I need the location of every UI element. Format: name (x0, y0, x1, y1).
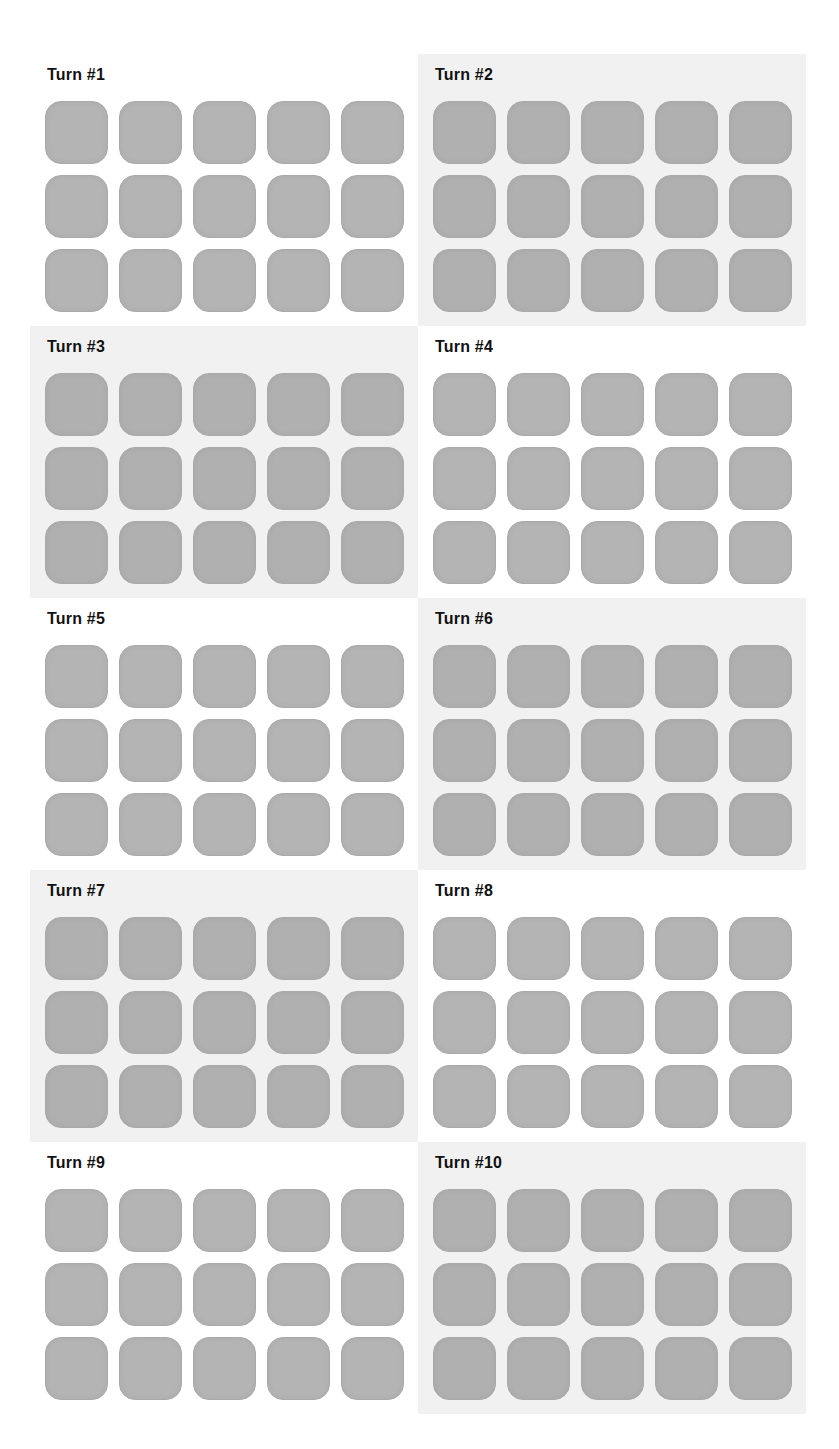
tile-r1-c3[interactable] (581, 101, 644, 164)
tile-r3-c5[interactable] (729, 793, 792, 856)
tile-r1-c4[interactable] (267, 101, 330, 164)
tile-r1-c3[interactable] (581, 373, 644, 436)
tile-r2-c4[interactable] (267, 447, 330, 510)
tile-r2-c3[interactable] (193, 175, 256, 238)
tile-r3-c2[interactable] (119, 249, 182, 312)
tile-r3-c2[interactable] (507, 793, 570, 856)
tile-r3-c2[interactable] (119, 521, 182, 584)
tile-r3-c1[interactable] (45, 1337, 108, 1400)
tile-r1-c1[interactable] (45, 101, 108, 164)
tile-r3-c5[interactable] (729, 1337, 792, 1400)
tile-r3-c5[interactable] (729, 1065, 792, 1128)
tile-r2-c5[interactable] (341, 719, 404, 782)
tile-r1-c2[interactable] (507, 101, 570, 164)
tile-r3-c3[interactable] (581, 1065, 644, 1128)
tile-r3-c1[interactable] (45, 1065, 108, 1128)
tile-r2-c5[interactable] (341, 175, 404, 238)
tile-r2-c3[interactable] (193, 991, 256, 1054)
tile-r2-c4[interactable] (267, 719, 330, 782)
tile-r3-c2[interactable] (507, 521, 570, 584)
tile-r3-c4[interactable] (655, 521, 718, 584)
tile-r1-c1[interactable] (45, 373, 108, 436)
tile-r1-c2[interactable] (507, 645, 570, 708)
tile-r2-c5[interactable] (729, 719, 792, 782)
tile-r3-c3[interactable] (581, 521, 644, 584)
tile-r2-c4[interactable] (655, 1263, 718, 1326)
tile-r3-c5[interactable] (341, 521, 404, 584)
tile-r3-c4[interactable] (655, 1337, 718, 1400)
tile-r3-c3[interactable] (581, 1337, 644, 1400)
tile-r1-c2[interactable] (119, 373, 182, 436)
tile-r1-c3[interactable] (193, 645, 256, 708)
tile-r1-c5[interactable] (729, 101, 792, 164)
tile-r3-c4[interactable] (267, 249, 330, 312)
tile-r2-c2[interactable] (507, 447, 570, 510)
tile-r1-c1[interactable] (433, 645, 496, 708)
tile-r3-c4[interactable] (267, 521, 330, 584)
tile-r3-c3[interactable] (193, 249, 256, 312)
tile-r1-c3[interactable] (193, 1189, 256, 1252)
tile-r1-c2[interactable] (119, 645, 182, 708)
tile-r2-c1[interactable] (433, 991, 496, 1054)
tile-r3-c3[interactable] (193, 793, 256, 856)
tile-r3-c2[interactable] (119, 793, 182, 856)
tile-r2-c2[interactable] (507, 1263, 570, 1326)
tile-r3-c1[interactable] (45, 793, 108, 856)
tile-r1-c5[interactable] (729, 1189, 792, 1252)
tile-r2-c1[interactable] (45, 719, 108, 782)
tile-r2-c4[interactable] (655, 991, 718, 1054)
tile-r2-c2[interactable] (507, 991, 570, 1054)
tile-r1-c4[interactable] (267, 1189, 330, 1252)
tile-r1-c4[interactable] (655, 645, 718, 708)
tile-r1-c4[interactable] (655, 373, 718, 436)
tile-r3-c2[interactable] (507, 249, 570, 312)
tile-r3-c5[interactable] (341, 1337, 404, 1400)
tile-r2-c5[interactable] (729, 991, 792, 1054)
tile-r3-c1[interactable] (433, 521, 496, 584)
tile-r2-c5[interactable] (729, 1263, 792, 1326)
tile-r1-c2[interactable] (119, 1189, 182, 1252)
tile-r2-c1[interactable] (45, 447, 108, 510)
tile-r2-c4[interactable] (267, 991, 330, 1054)
tile-r1-c1[interactable] (45, 1189, 108, 1252)
tile-r3-c1[interactable] (433, 793, 496, 856)
tile-r2-c4[interactable] (655, 719, 718, 782)
tile-r3-c4[interactable] (655, 1065, 718, 1128)
tile-r1-c3[interactable] (581, 917, 644, 980)
tile-r2-c5[interactable] (729, 175, 792, 238)
tile-r2-c1[interactable] (433, 719, 496, 782)
tile-r2-c2[interactable] (507, 175, 570, 238)
tile-r1-c1[interactable] (433, 373, 496, 436)
tile-r2-c1[interactable] (45, 175, 108, 238)
tile-r2-c2[interactable] (119, 447, 182, 510)
tile-r1-c4[interactable] (267, 917, 330, 980)
tile-r3-c2[interactable] (119, 1337, 182, 1400)
tile-r2-c1[interactable] (45, 991, 108, 1054)
tile-r1-c3[interactable] (581, 645, 644, 708)
tile-r3-c4[interactable] (655, 249, 718, 312)
tile-r2-c1[interactable] (433, 1263, 496, 1326)
tile-r1-c2[interactable] (119, 917, 182, 980)
tile-r3-c4[interactable] (267, 1337, 330, 1400)
tile-r3-c1[interactable] (45, 521, 108, 584)
tile-r3-c2[interactable] (507, 1337, 570, 1400)
tile-r1-c5[interactable] (729, 917, 792, 980)
tile-r3-c3[interactable] (193, 1337, 256, 1400)
tile-r3-c5[interactable] (341, 793, 404, 856)
tile-r2-c4[interactable] (267, 175, 330, 238)
tile-r2-c3[interactable] (193, 447, 256, 510)
tile-r1-c2[interactable] (119, 101, 182, 164)
tile-r2-c3[interactable] (193, 719, 256, 782)
tile-r2-c2[interactable] (119, 1263, 182, 1326)
tile-r2-c5[interactable] (341, 991, 404, 1054)
tile-r1-c3[interactable] (581, 1189, 644, 1252)
tile-r3-c5[interactable] (341, 1065, 404, 1128)
tile-r3-c5[interactable] (341, 249, 404, 312)
tile-r1-c4[interactable] (267, 645, 330, 708)
tile-r1-c1[interactable] (45, 917, 108, 980)
tile-r3-c5[interactable] (729, 249, 792, 312)
tile-r2-c1[interactable] (45, 1263, 108, 1326)
tile-r2-c1[interactable] (433, 447, 496, 510)
tile-r1-c3[interactable] (193, 101, 256, 164)
tile-r1-c5[interactable] (729, 373, 792, 436)
